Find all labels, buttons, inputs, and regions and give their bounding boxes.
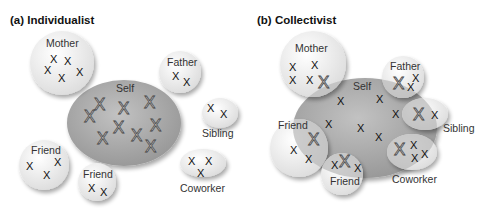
svg-text:X: X	[188, 155, 196, 167]
svg-text:X: X	[308, 130, 319, 149]
svg-text:X: X	[394, 140, 405, 159]
svg-text:X: X	[100, 186, 108, 198]
svg-text:X: X	[289, 74, 297, 86]
svg-text:Sibling: Sibling	[202, 127, 234, 139]
svg-text:X: X	[339, 152, 350, 171]
svg-text:X: X	[84, 107, 95, 126]
svg-text:X: X	[150, 116, 161, 135]
svg-text:X: X	[113, 118, 124, 137]
svg-text:Coworker: Coworker	[392, 173, 437, 185]
a-friend1-circle: Friend X X X	[19, 140, 69, 190]
svg-text:X: X	[411, 152, 419, 164]
svg-text:X: X	[375, 131, 383, 143]
svg-text:Coworker: Coworker	[180, 182, 225, 194]
svg-text:X: X	[26, 160, 34, 172]
svg-text:X: X	[205, 155, 213, 167]
svg-text:Mother: Mother	[46, 37, 79, 49]
a-sibling-circle: X X Sibling	[202, 98, 238, 139]
b-mother-circle: Mother X X X X X	[280, 31, 346, 97]
a-father-circle: Father X X	[159, 51, 201, 93]
svg-text:Friend: Friend	[83, 168, 113, 180]
b-friend1-circle: Friend X X X	[270, 119, 328, 177]
svg-text:X: X	[305, 153, 313, 165]
panel-b-collectivist: Self Mother X X X X X Father X X X X X S…	[270, 31, 475, 195]
svg-text:X: X	[88, 182, 96, 194]
b-father-circle: Father X X X	[382, 56, 424, 98]
svg-text:X: X	[413, 105, 424, 124]
b-coworker-circle: X X X X Coworker	[387, 134, 437, 185]
svg-text:X: X	[325, 118, 333, 130]
svg-text:X: X	[131, 126, 142, 145]
svg-text:Father: Father	[390, 60, 421, 72]
self-construal-diagram: Self X X X X X X X X X Mother X X X X X …	[0, 0, 488, 209]
svg-text:X: X	[376, 93, 384, 105]
svg-text:X: X	[54, 156, 62, 168]
svg-text:X: X	[44, 64, 52, 76]
svg-text:X: X	[64, 55, 72, 67]
svg-text:X: X	[183, 76, 191, 88]
svg-text:X: X	[58, 72, 66, 84]
panel-a-individualist: Self X X X X X X X X X Mother X X X X X …	[19, 31, 238, 201]
a-self-label: Self	[116, 82, 134, 94]
svg-text:X: X	[94, 95, 105, 114]
svg-text:X: X	[431, 109, 439, 121]
svg-text:X: X	[144, 93, 155, 112]
svg-text:X: X	[311, 59, 319, 71]
a-mother-circle: Mother X X X X X	[30, 31, 94, 95]
svg-text:X: X	[337, 95, 345, 107]
svg-text:Father: Father	[167, 56, 198, 68]
svg-text:X: X	[357, 122, 365, 134]
a-friend2-circle: Friend X X	[78, 163, 116, 201]
svg-text:X: X	[172, 70, 180, 82]
b-self-label: Self	[353, 80, 371, 92]
svg-text:X: X	[289, 61, 297, 73]
svg-text:Friend: Friend	[330, 175, 360, 187]
svg-text:Sibling: Sibling	[443, 122, 475, 134]
svg-text:X: X	[421, 148, 429, 160]
svg-text:X: X	[392, 108, 400, 120]
svg-text:X: X	[197, 167, 205, 179]
svg-text:X: X	[393, 74, 404, 93]
svg-text:X: X	[331, 159, 339, 171]
svg-text:X: X	[220, 108, 228, 120]
a-coworker-circle: X X X Coworker	[180, 149, 226, 194]
svg-text:Mother: Mother	[295, 42, 328, 54]
svg-text:X: X	[118, 99, 129, 118]
svg-text:X: X	[354, 162, 362, 174]
svg-text:X: X	[97, 129, 108, 148]
svg-text:X: X	[410, 139, 418, 151]
svg-text:X: X	[207, 102, 215, 114]
svg-text:X: X	[290, 144, 298, 156]
svg-text:X: X	[306, 74, 314, 86]
svg-text:X: X	[43, 169, 51, 181]
svg-text:X: X	[145, 137, 156, 156]
svg-text:X: X	[318, 73, 329, 92]
svg-text:Friend: Friend	[278, 119, 308, 131]
svg-text:X: X	[407, 81, 415, 93]
svg-text:X: X	[76, 66, 84, 78]
svg-text:Friend: Friend	[31, 144, 61, 156]
